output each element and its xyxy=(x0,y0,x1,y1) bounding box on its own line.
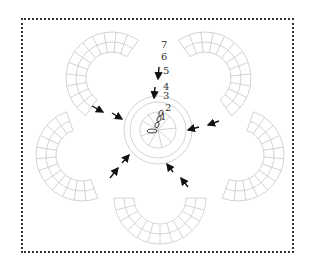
arrow-icon xyxy=(208,121,219,125)
row-labels: 7 6 5 4 3 2 1 xyxy=(160,39,171,122)
center-rings xyxy=(124,96,192,164)
arrow-icon xyxy=(92,106,103,112)
petal-left xyxy=(23,112,98,214)
svg-text:1: 1 xyxy=(160,111,166,122)
petal-right xyxy=(222,112,297,214)
arrow-icon xyxy=(181,178,188,187)
svg-text:3: 3 xyxy=(163,90,169,101)
crochet-diagram: 7 6 5 4 3 2 1 xyxy=(0,0,311,274)
arrow-icon xyxy=(158,67,159,79)
petal-top-left xyxy=(48,14,138,116)
svg-text:6: 6 xyxy=(161,51,167,62)
petal-bottom xyxy=(114,198,206,244)
petals xyxy=(23,14,297,244)
svg-text:5: 5 xyxy=(163,65,169,76)
svg-text:7: 7 xyxy=(161,39,167,50)
arrow-icon xyxy=(188,127,199,130)
arrow-icon xyxy=(110,168,118,178)
arrow-icon xyxy=(167,164,173,172)
arrow-icon xyxy=(154,87,155,98)
arrow-icon xyxy=(122,155,129,163)
petal-top-right xyxy=(179,14,269,116)
arrow-icon xyxy=(112,113,122,119)
